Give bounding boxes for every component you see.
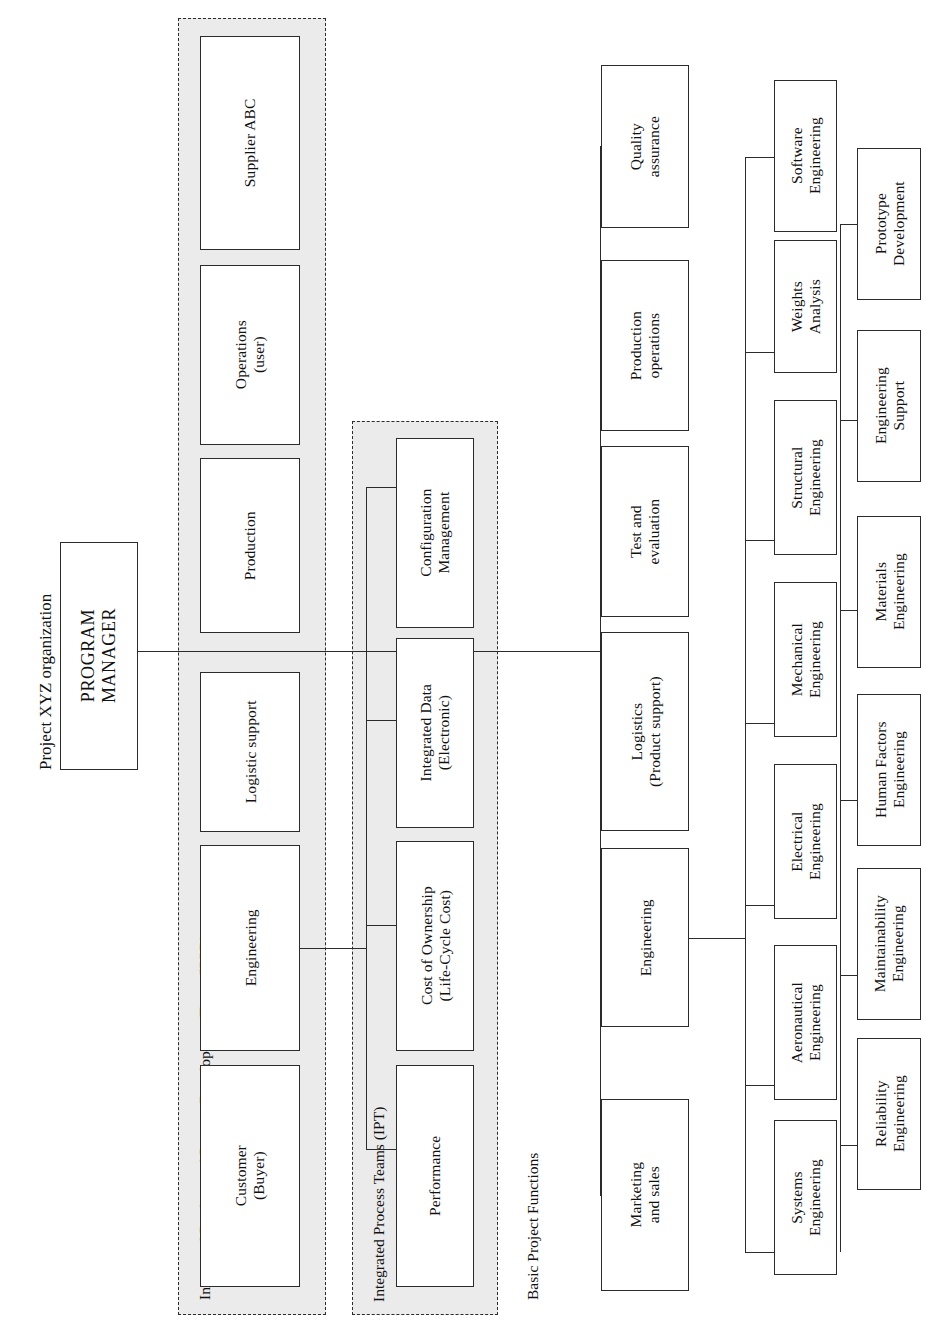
node-disc-systems-engineering-line1: Systems [788,1171,805,1223]
node-sup-maintainability-engineering[interactable]: Maintainability Engineering [857,868,921,1020]
support-spine [840,224,841,1252]
node-disc-mechanical-engineering-line1: Mechanical [788,623,805,696]
node-ippd-operations[interactable]: Operations (user) [200,265,300,445]
node-sup-engineering-support[interactable]: Engineering Support [857,330,921,482]
node-ipt-configuration-management[interactable]: Configuration Management [396,438,474,628]
node-disc-structural-engineering[interactable]: Structural Engineering [774,400,837,555]
node-bf-quality-assurance-line2: assurance [645,116,662,177]
node-bf-quality-assurance[interactable]: Quality assurance [601,65,689,228]
node-ippd-production[interactable]: Production [200,458,300,633]
node-sup-materials-engineering-line1: Materials [871,562,888,621]
node-sup-prototype-development-line2: Development [889,182,906,267]
node-bf-marketing-and-sales-line2: and sales [645,1166,662,1223]
node-bf-test-and-evaluation-line1: Test and [627,505,644,558]
node-bf-marketing-and-sales[interactable]: Marketing and sales [601,1099,689,1291]
node-sup-prototype-development-line1: Prototype [871,193,888,254]
node-disc-electrical-engineering[interactable]: Electrical Engineering [774,764,837,919]
node-sup-materials-engineering[interactable]: Materials Engineering [857,516,921,668]
node-ippd-engineering-line1: Engineering [241,910,258,987]
connector-sup-reliability [840,1145,858,1146]
node-disc-aeronautical-engineering[interactable]: Aeronautical Engineering [774,945,837,1100]
node-ipt-performance-line1: Performance [426,1136,443,1216]
node-ipt-configuration-management-line1: Configuration [417,489,434,577]
node-sup-maintainability-engineering-line2: Engineering [889,906,906,983]
node-disc-aeronautical-engineering-line2: Engineering [806,984,823,1061]
node-bf-test-and-evaluation[interactable]: Test and evaluation [601,446,689,617]
node-disc-mechanical-engineering-line2: Engineering [806,621,823,698]
trunk-main-line [138,651,601,652]
page-title: Project XYZ organization [36,594,56,770]
connector-disc-weights [745,352,774,353]
group-ipt-label: Integrated Process Teams (IPT) [370,1107,388,1302]
node-disc-electrical-engineering-line2: Engineering [806,803,823,880]
node-ipt-cost-of-ownership-line2: (Life-Cycle Cost) [435,890,452,1001]
node-disc-weights-analysis[interactable]: Weights Analysis [774,240,837,373]
node-disc-software-engineering[interactable]: Software Engineering [774,80,837,232]
node-ipt-integrated-data-line1: Integrated Data [417,684,434,781]
node-bf-quality-assurance-line1: Quality [627,123,644,170]
node-ippd-customer-line1: Customer [232,1145,249,1206]
node-sup-engineering-support-line2: Support [889,381,906,431]
connector-sup-human-factors [840,800,858,801]
node-program-manager-line1: PROGRAM [78,609,98,702]
ipt-spine [366,487,367,1150]
node-disc-software-engineering-line2: Engineering [806,118,823,195]
node-disc-systems-engineering[interactable]: Systems Engineering [774,1120,837,1275]
connector-ipt-performance [366,1149,396,1150]
node-disc-aeronautical-engineering-line1: Aeronautical [788,982,805,1063]
connector-sup-engineering-support [840,420,858,421]
node-ippd-supplier-abc-line1: Supplier ABC [241,99,258,188]
node-bf-engineering[interactable]: Engineering [601,848,689,1027]
node-sup-maintainability-engineering-line1: Maintainability [871,895,888,992]
node-disc-electrical-engineering-line1: Electrical [788,811,805,871]
node-ippd-logistic-support-line1: Logistic support [241,701,258,804]
node-bf-test-and-evaluation-line2: evaluation [645,499,662,565]
node-ippd-operations-line2: (user) [250,337,267,374]
node-ipt-performance[interactable]: Performance [396,1065,474,1287]
node-ippd-customer[interactable]: Customer (Buyer) [200,1065,300,1287]
node-disc-weights-analysis-line1: Weights [788,281,805,332]
node-bf-production-operations-line2: operations [645,313,662,379]
connector-ipt-configuration-management [366,487,396,488]
connector-ippd-engineering-to-ipt [300,948,367,949]
connector-sup-materials [840,610,858,611]
node-program-manager[interactable]: PROGRAM MANAGER [60,542,138,770]
node-ippd-operations-line1: Operations [232,320,249,389]
node-program-manager-line2: MANAGER [99,608,119,703]
node-sup-reliability-engineering[interactable]: Reliability Engineering [857,1038,921,1190]
node-sup-prototype-development[interactable]: Prototype Development [857,148,921,300]
disciplines-spine [745,157,746,1253]
node-disc-systems-engineering-line2: Engineering [806,1159,823,1236]
node-ippd-logistic-support[interactable]: Logistic support [200,672,300,832]
node-ipt-configuration-management-line2: Management [435,492,452,574]
connector-disc-software [745,157,774,158]
node-bf-production-operations[interactable]: Production operations [601,260,689,431]
node-ippd-production-line1: Production [241,511,258,580]
node-ipt-integrated-data[interactable]: Integrated Data (Electronic) [396,638,474,828]
node-bf-marketing-and-sales-line1: Marketing [627,1162,644,1227]
node-sup-reliability-engineering-line2: Engineering [889,1076,906,1153]
node-disc-weights-analysis-line2: Analysis [806,279,823,334]
node-disc-structural-engineering-line1: Structural [788,446,805,508]
connector-disc-systems [745,1252,774,1253]
connector-sup-maintainability [840,975,858,976]
connector-engineering-to-disciplines [689,938,746,939]
node-ipt-cost-of-ownership-line1: Cost of Ownership [417,887,434,1006]
org-chart-canvas: Project XYZ organization Integrated Prod… [0,0,951,1336]
node-ipt-cost-of-ownership[interactable]: Cost of Ownership (Life-Cycle Cost) [396,841,474,1051]
node-ippd-customer-line2: (Buyer) [250,1152,267,1201]
node-ippd-engineering[interactable]: Engineering [200,845,300,1051]
connector-disc-mechanical [745,723,774,724]
node-sup-human-factors-engineering-line2: Engineering [889,732,906,809]
node-sup-materials-engineering-line2: Engineering [889,554,906,631]
node-ippd-supplier-abc[interactable]: Supplier ABC [200,36,300,250]
node-disc-mechanical-engineering[interactable]: Mechanical Engineering [774,582,837,737]
connector-ipt-cost-of-ownership [366,925,396,926]
node-bf-engineering-line1: Engineering [636,899,653,976]
node-disc-software-engineering-line1: Software [788,128,805,185]
node-bf-logistics[interactable]: Logistics (Product support) [601,632,689,831]
node-sup-engineering-support-line1: Engineering [871,368,888,445]
node-sup-human-factors-engineering[interactable]: Human Factors Engineering [857,694,921,846]
node-bf-logistics-line2: (Product support) [645,676,662,787]
node-sup-reliability-engineering-line1: Reliability [871,1081,888,1148]
